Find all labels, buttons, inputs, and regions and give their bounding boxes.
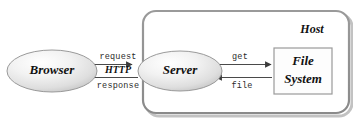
node-browser-label: Browser (29, 62, 76, 77)
diagram-canvas: Host request response HTTP get file Brow… (0, 0, 353, 128)
node-server-label: Server (163, 62, 199, 77)
host-label: Host (299, 22, 324, 36)
node-file-system-label-line1: File (291, 53, 314, 68)
edge-label-request: request (99, 52, 136, 62)
edge-label-response: response (97, 81, 139, 91)
node-file-system-label-line2: System (284, 71, 322, 86)
edge-label-http: HTTP (104, 64, 132, 75)
edge-label-file: file (231, 81, 252, 91)
diagram-svg: Host request response HTTP get file Brow… (0, 0, 353, 128)
edge-label-get: get (232, 52, 248, 62)
